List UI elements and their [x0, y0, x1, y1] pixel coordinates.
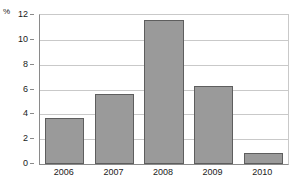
y-tick-label: 8 — [23, 59, 28, 68]
bars-layer — [40, 15, 288, 164]
y-tick-label: 2 — [23, 134, 28, 143]
bar-2008 — [144, 20, 183, 164]
y-tick-label: 6 — [23, 84, 28, 93]
y-tick-mark — [30, 39, 34, 40]
bar-chart: % 024681012 20062007200820092010 — [0, 0, 297, 190]
bar-2006 — [45, 118, 84, 164]
y-tick-mark — [30, 163, 34, 164]
x-tick-label: 2008 — [138, 167, 188, 178]
y-tick-mark — [30, 14, 34, 15]
x-tick-label: 2010 — [237, 167, 287, 178]
y-tick-mark — [30, 138, 34, 139]
x-tick-label: 2009 — [188, 167, 238, 178]
x-tick-label: 2006 — [39, 167, 89, 178]
bar-2009 — [194, 86, 233, 164]
y-tick-label: 12 — [18, 10, 28, 19]
plot-area — [39, 14, 289, 165]
y-tick-mark — [30, 113, 34, 114]
y-tick-label: 0 — [23, 159, 28, 168]
bar-2010 — [244, 153, 283, 164]
y-tick-label: 10 — [18, 34, 28, 43]
y-axis: 024681012 — [0, 0, 39, 190]
bar-2007 — [95, 94, 134, 164]
x-axis: 20062007200820092010 — [39, 167, 289, 187]
x-tick-label: 2007 — [89, 167, 139, 178]
y-tick-mark — [30, 89, 34, 90]
y-tick-label: 4 — [23, 109, 28, 118]
y-tick-mark — [30, 64, 34, 65]
